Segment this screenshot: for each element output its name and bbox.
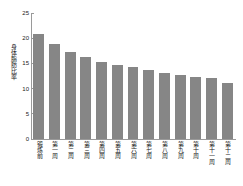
bar	[175, 75, 186, 139]
bar	[128, 67, 139, 139]
y-axis-tick-label: 25	[22, 10, 31, 16]
y-axis-tick-label: 15	[22, 60, 31, 66]
bar	[112, 65, 123, 139]
x-axis-tick-label: 第二周	[67, 141, 73, 159]
y-axis-title: 身体脂肪比率	[4, 44, 16, 80]
x-axis-tick-label: 第六周	[130, 141, 136, 159]
x-axis-tick-label: 第十二周	[224, 141, 230, 165]
bar	[159, 73, 170, 139]
x-axis-tick-label: 第八周	[161, 141, 167, 159]
bar	[65, 52, 76, 139]
bar	[190, 77, 201, 139]
bar	[206, 78, 217, 139]
x-axis-tick-label: 第一周	[51, 141, 57, 159]
bar	[222, 83, 233, 139]
bar	[80, 57, 91, 139]
bar	[49, 44, 60, 139]
x-axis-tick-label: 第三周	[83, 141, 89, 159]
x-axis-tick-label: 第四周	[98, 141, 104, 159]
bar-series	[31, 13, 235, 139]
x-axis-tick-label: 第十周	[193, 141, 199, 159]
x-axis-tick-label: 第九周	[177, 141, 183, 159]
x-axis-tick-labels: 锻炼前第一周第二周第三周第四周第五周第六周第七周第八周第九周第十周第十一周第十二…	[31, 141, 235, 186]
y-axis-tick: 15	[22, 60, 31, 66]
bar	[143, 70, 154, 139]
x-axis-tick-label: 第七周	[145, 141, 151, 159]
y-axis-tick-label: 20	[22, 35, 31, 41]
x-axis-tick-label: 锻炼前	[36, 141, 42, 159]
y-axis-tick: 25	[22, 10, 31, 16]
body-fat-bar-chart: 身体脂肪比率 0510152025 锻炼前第一周第二周第三周第四周第五周第六周第…	[0, 0, 243, 186]
x-axis-tick-label: 第五周	[114, 141, 120, 159]
bar	[33, 34, 44, 139]
plot-area: 0510152025	[31, 13, 235, 139]
bar	[96, 62, 107, 139]
x-axis-tick-label: 第十一周	[208, 141, 214, 165]
y-axis-tick: 20	[22, 35, 31, 41]
y-axis-tick: 10	[22, 86, 31, 92]
y-axis-tick-label: 10	[22, 86, 31, 92]
